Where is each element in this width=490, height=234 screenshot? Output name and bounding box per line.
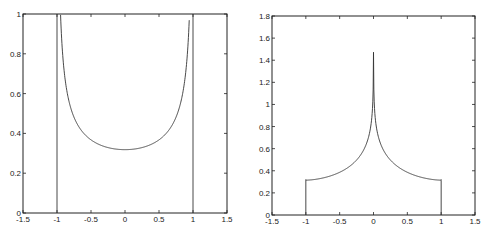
y-tick-label: 0.2: [259, 189, 271, 198]
x-tick-label: -1.5: [16, 215, 30, 224]
right-plot-frame: [272, 16, 475, 215]
x-tick-label: 0: [371, 217, 376, 226]
y-tick-label: 0.4: [259, 167, 271, 176]
y-tick-label: 1: [17, 10, 22, 19]
right-curve: [306, 52, 441, 215]
x-tick-label: -1: [53, 215, 61, 224]
x-tick-label: -0.5: [333, 217, 347, 226]
figure: 00.20.40.60.81 -1.5-1-0.500.511.5 00.20.…: [0, 0, 490, 234]
left-y-axis: 00.20.40.60.81: [10, 10, 227, 218]
y-tick-label: 1: [266, 100, 271, 109]
y-tick-label: 1.4: [259, 56, 271, 65]
x-tick-label: 1: [191, 215, 196, 224]
right-plot: 00.20.40.60.811.21.41.61.8 -1.5-1-0.500.…: [259, 12, 481, 226]
right-x-axis: -1.5-1-0.500.511.5: [265, 16, 481, 226]
left-plot: 00.20.40.60.81 -1.5-1-0.500.511.5: [10, 10, 233, 224]
y-tick-label: 1.8: [259, 12, 271, 21]
x-tick-label: 0.5: [402, 217, 414, 226]
y-tick-label: 0.8: [10, 50, 22, 59]
x-tick-label: -1: [302, 217, 310, 226]
y-tick-label: 0.4: [10, 129, 22, 138]
y-tick-label: 1.6: [259, 34, 271, 43]
x-tick-label: 1.5: [469, 217, 481, 226]
y-tick-label: 0.2: [10, 169, 22, 178]
left-x-axis: -1.5-1-0.500.511.5: [16, 14, 233, 224]
x-tick-label: -0.5: [84, 215, 98, 224]
x-tick-label: 1: [439, 217, 444, 226]
left-plot-frame: [23, 14, 227, 213]
y-tick-label: 0.6: [259, 145, 271, 154]
right-y-axis: 00.20.40.60.811.21.41.61.8: [259, 12, 475, 220]
y-tick-label: 0.8: [259, 123, 271, 132]
x-tick-label: 0.5: [153, 215, 165, 224]
y-tick-label: 0.6: [10, 90, 22, 99]
x-tick-label: 1.5: [221, 215, 233, 224]
left-curve: [57, 14, 193, 213]
x-tick-label: -1.5: [265, 217, 279, 226]
x-tick-label: 0: [123, 215, 128, 224]
y-tick-label: 1.2: [259, 78, 271, 87]
